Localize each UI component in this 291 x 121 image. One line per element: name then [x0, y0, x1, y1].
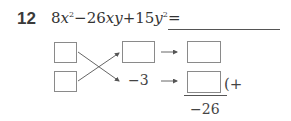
cross-arrows-diagram — [0, 0, 291, 121]
cross-arrow-icon — [78, 52, 119, 81]
right-arrow-icon — [161, 52, 177, 81]
